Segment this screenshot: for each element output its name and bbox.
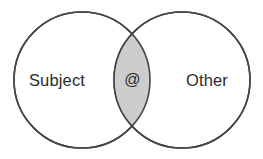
- left-set-label: Subject: [0, 72, 114, 89]
- right-set-label: Other: [151, 72, 263, 89]
- intersection-label: @: [114, 72, 151, 88]
- venn-diagram: Subject @ Other: [0, 0, 263, 159]
